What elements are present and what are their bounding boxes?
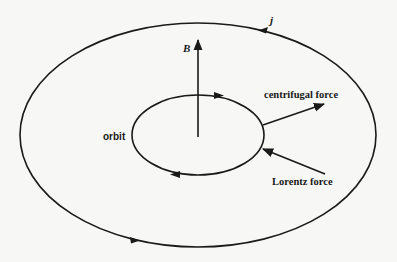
outer-loop-arrow-top-icon (258, 27, 268, 34)
lorentz-force-arrow (263, 149, 325, 174)
centrifugal-force-arrow (263, 104, 324, 125)
outer-loop-arrow-bottom-icon (130, 237, 140, 244)
centrifugal-force-label: centrifugal force (264, 89, 338, 100)
magnetic-field-label: B (182, 42, 190, 54)
diagram-svg: j B orbit centrifugal force Lorentz forc… (0, 0, 397, 262)
current-label: j (268, 14, 274, 26)
diagram-canvas: j B orbit centrifugal force Lorentz forc… (0, 0, 397, 262)
orbit-label: orbit (103, 131, 126, 142)
lorentz-force-label: Lorentz force (272, 176, 333, 187)
